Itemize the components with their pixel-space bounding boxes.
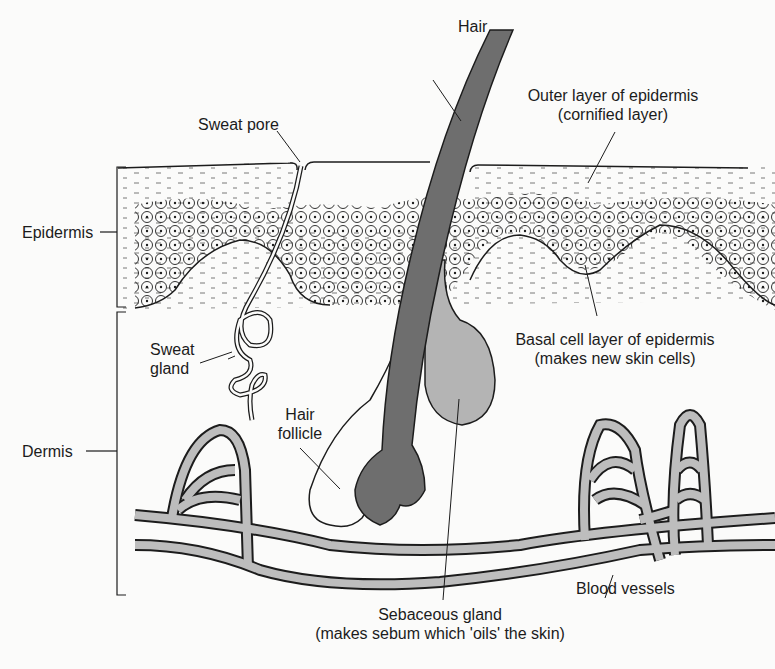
dermis-bracket	[86, 312, 126, 595]
label-hair: Hair	[458, 17, 487, 36]
label-blood-vessels: Blood vessels	[576, 579, 675, 598]
label-hair-follicle-line1: Hair	[270, 405, 330, 424]
blood-vessels	[135, 415, 775, 584]
label-sebaceous-line2: (makes sebum which 'oils' the skin)	[300, 624, 580, 643]
label-sebaceous-line1: Sebaceous gland	[300, 605, 580, 624]
label-outer-layer-line2: (cornified layer)	[513, 105, 713, 124]
label-sweat-gland-line1: Sweat	[150, 340, 194, 359]
label-outer-layer: Outer layer of epidermis (cornified laye…	[513, 86, 713, 124]
label-basal-layer: Basal cell layer of epidermis (makes new…	[495, 330, 735, 368]
label-epidermis: Epidermis	[22, 223, 93, 242]
label-outer-layer-line1: Outer layer of epidermis	[513, 86, 713, 105]
label-sweat-pore: Sweat pore	[198, 115, 279, 134]
label-hair-follicle-line2: follicle	[270, 424, 330, 443]
label-sweat-gland-line2: gland	[150, 359, 194, 378]
label-basal-line1: Basal cell layer of epidermis	[495, 330, 735, 349]
label-basal-line2: (makes new skin cells)	[495, 349, 735, 368]
label-hair-follicle: Hair follicle	[270, 405, 330, 443]
label-sebaceous-gland: Sebaceous gland (makes sebum which 'oils…	[300, 605, 580, 643]
label-sweat-gland: Sweat gland	[150, 340, 194, 378]
label-dermis: Dermis	[22, 442, 73, 461]
